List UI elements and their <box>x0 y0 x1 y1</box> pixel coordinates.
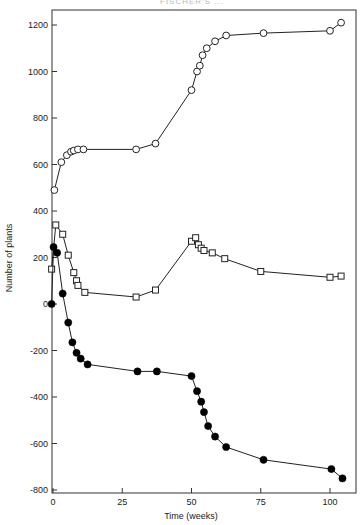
y-axis-title: Number of plants <box>4 223 14 292</box>
data-point-filled-circle <box>200 409 207 416</box>
data-point-square <box>65 252 71 258</box>
data-point-square <box>152 287 158 293</box>
data-point-square <box>222 256 228 262</box>
data-point-filled-circle <box>153 368 160 375</box>
data-point-open-circle <box>338 19 345 26</box>
data-point-open-circle <box>188 87 195 94</box>
data-point-square <box>49 266 55 272</box>
data-point-filled-circle <box>48 300 55 307</box>
x-tick-label: 25 <box>117 497 127 507</box>
y-tick-label: 1200 <box>28 20 48 30</box>
data-point-square <box>327 274 333 280</box>
x-tick-label: 50 <box>186 497 196 507</box>
data-point-filled-circle <box>69 339 76 346</box>
data-point-filled-circle <box>54 249 61 256</box>
data-point-square <box>82 289 88 295</box>
data-point-open-circle <box>152 140 159 147</box>
data-point-open-circle <box>327 27 334 34</box>
data-point-square <box>193 235 199 241</box>
data-point-open-circle <box>199 52 206 59</box>
data-point-filled-circle <box>84 361 91 368</box>
data-point-filled-circle <box>59 290 66 297</box>
x-axis: 0255075100 <box>50 488 337 507</box>
data-point-filled-circle <box>328 465 335 472</box>
data-point-filled-circle <box>211 433 218 440</box>
y-tick-label: 200 <box>33 253 48 263</box>
data-point-square <box>71 270 77 276</box>
data-point-open-circle <box>223 32 230 39</box>
x-tick-label: 0 <box>50 497 55 507</box>
series-line <box>52 247 343 478</box>
data-point-filled-circle <box>65 319 72 326</box>
data-point-square <box>209 250 215 256</box>
data-point-square <box>133 294 139 300</box>
series-filled-circle <box>48 243 346 482</box>
y-tick-label: 600 <box>33 160 48 170</box>
data-series <box>48 19 346 482</box>
data-point-square <box>338 273 344 279</box>
y-tick-label: 800 <box>33 113 48 123</box>
data-point-filled-circle <box>77 355 84 362</box>
x-axis-title: Time (weeks) <box>164 511 218 521</box>
y-tick-label: -400 <box>30 392 48 402</box>
data-point-filled-circle <box>205 422 212 429</box>
series-open-circle <box>51 19 344 193</box>
data-point-square <box>201 248 207 254</box>
data-point-open-circle <box>133 146 140 153</box>
data-point-square <box>75 282 81 288</box>
data-point-filled-circle <box>198 398 205 405</box>
data-point-open-circle <box>203 45 210 52</box>
data-point-filled-circle <box>223 443 230 450</box>
data-point-open-circle <box>260 30 267 37</box>
line-chart: 120010008006004002000-200-400-600-800 02… <box>0 0 364 525</box>
y-tick-label: 400 <box>33 206 48 216</box>
data-point-filled-circle <box>339 475 346 482</box>
data-point-open-circle <box>212 38 219 45</box>
data-point-square <box>60 231 66 237</box>
y-tick-label: -600 <box>30 439 48 449</box>
data-point-open-circle <box>196 62 203 69</box>
data-point-filled-circle <box>193 388 200 395</box>
y-tick-label: -800 <box>30 485 48 495</box>
data-point-square <box>53 222 59 228</box>
y-tick-label: 1000 <box>28 67 48 77</box>
series-open-square <box>49 222 344 300</box>
y-tick-label: -200 <box>30 346 48 356</box>
data-point-filled-circle <box>134 368 141 375</box>
data-point-open-circle <box>58 159 65 166</box>
data-point-filled-circle <box>260 456 267 463</box>
data-point-square <box>258 268 264 274</box>
data-point-filled-circle <box>188 372 195 379</box>
x-tick-label: 100 <box>322 497 337 507</box>
x-tick-label: 75 <box>256 497 266 507</box>
series-line <box>54 23 341 190</box>
data-point-open-circle <box>80 146 87 153</box>
y-tick-label: 0 <box>43 299 48 309</box>
data-point-open-circle <box>51 187 58 194</box>
